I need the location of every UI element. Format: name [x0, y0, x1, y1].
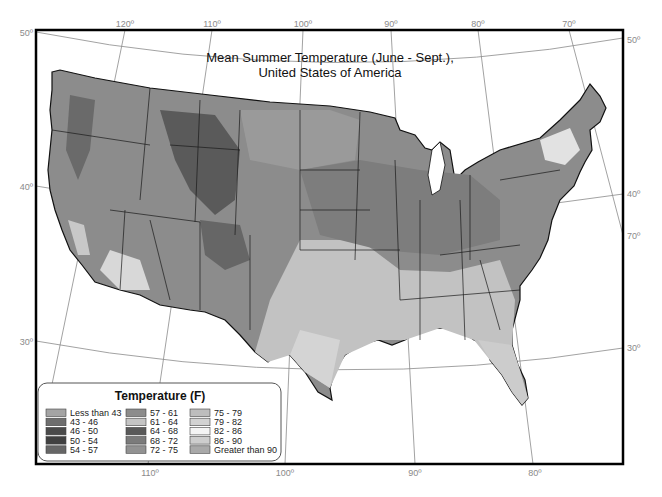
legend-swatch — [126, 446, 146, 454]
map-title-line-2: United States of America — [258, 65, 402, 80]
legend-swatch — [126, 418, 146, 426]
legend-swatch — [190, 427, 210, 435]
lon-label-top-110: 110º — [203, 19, 221, 29]
lat-label-left-40: 40º — [20, 182, 34, 192]
map-canvas: Mean Summer Temperature (June - Sept.), … — [0, 0, 662, 497]
legend-label: 72 - 75 — [150, 445, 178, 455]
lon-label-top-120: 120º — [116, 19, 135, 29]
legend-swatch — [46, 427, 66, 435]
legend-swatch — [46, 446, 66, 454]
lon-label-top-90: 90º — [384, 19, 398, 29]
lat-label-right-50: 50º — [627, 35, 641, 45]
lon-label-bottom-100: 100º — [276, 468, 295, 478]
legend-swatch — [46, 409, 66, 417]
lon-label-bottom-90: 90º — [408, 468, 422, 478]
legend-label: 54 - 57 — [70, 445, 98, 455]
legend-swatch — [190, 437, 210, 445]
region-florida — [478, 340, 528, 405]
lon-label-bottom-80: 80º — [528, 468, 542, 478]
legend: Temperature (F) Less than 4343 - 4646 - … — [38, 383, 281, 461]
legend-title: Temperature (F) — [115, 389, 205, 403]
lon-label-top-100: 100º — [294, 19, 313, 29]
lon-label-top-80: 80º — [471, 19, 485, 29]
lat-label-left-30: 30º — [20, 337, 34, 347]
legend-swatch — [46, 437, 66, 445]
lon-label-top-70: 70º — [562, 19, 576, 29]
lat-label-right-40: 40º — [627, 189, 641, 199]
legend-swatch — [190, 418, 210, 426]
us-land — [48, 70, 606, 405]
legend-swatch — [190, 409, 210, 417]
map-figure: Mean Summer Temperature (June - Sept.), … — [0, 0, 662, 497]
map-title-line-1: Mean Summer Temperature (June - Sept.), — [206, 50, 454, 65]
lon-label-bottom-110: 110º — [141, 468, 159, 478]
legend-swatch — [190, 446, 210, 454]
lat-label-right-30: 30º — [627, 343, 641, 353]
legend-label: Greater than 90 — [214, 445, 277, 455]
legend-swatch — [46, 418, 66, 426]
legend-swatch — [126, 427, 146, 435]
lon-label-right-70: 70º — [627, 231, 641, 241]
legend-swatch — [126, 409, 146, 417]
legend-swatch — [126, 437, 146, 445]
lat-label-left-50: 50º — [20, 28, 34, 38]
